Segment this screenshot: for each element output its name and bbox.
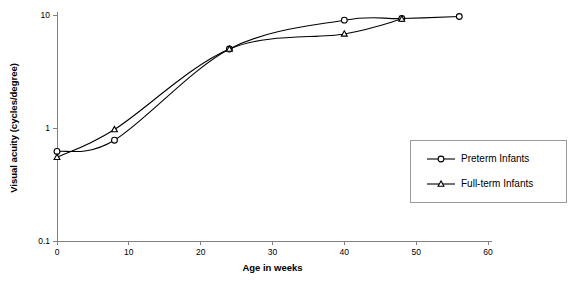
series-layer bbox=[54, 14, 462, 160]
legend-box bbox=[410, 140, 566, 202]
series-fullterm bbox=[54, 16, 405, 160]
data-point-marker bbox=[112, 137, 118, 143]
legend-marker-icon bbox=[438, 156, 444, 162]
x-axis: 0102030405060 bbox=[55, 241, 493, 257]
data-point-marker bbox=[54, 154, 60, 159]
x-tick-label: 40 bbox=[340, 247, 350, 257]
x-axis-title: Age in weeks bbox=[242, 262, 302, 273]
legend-item-label: Preterm Infants bbox=[461, 153, 529, 164]
data-point-marker bbox=[112, 126, 118, 131]
x-tick-label: 60 bbox=[483, 247, 493, 257]
series-preterm bbox=[54, 14, 462, 155]
x-tick-label: 50 bbox=[411, 247, 421, 257]
y-tick-label: 1 bbox=[45, 123, 50, 133]
y-tick-label: 0.1 bbox=[38, 236, 50, 246]
chart-legend: Preterm InfantsFull-term Infants bbox=[410, 140, 566, 202]
x-tick-label: 0 bbox=[55, 247, 60, 257]
x-axis-ticks: 0102030405060 bbox=[55, 241, 493, 257]
data-point-marker bbox=[456, 14, 462, 20]
data-point-marker bbox=[341, 17, 347, 23]
x-tick-label: 10 bbox=[124, 247, 134, 257]
data-point-marker bbox=[341, 31, 347, 36]
y-tick-label: 10 bbox=[41, 10, 51, 20]
x-tick-label: 20 bbox=[196, 247, 206, 257]
x-tick-label: 30 bbox=[268, 247, 278, 257]
chart-container: 0.1110 0102030405060 Age in weeks Visual… bbox=[0, 0, 574, 295]
y-axis-ticks: 0.1110 bbox=[38, 10, 57, 246]
legend-item-label: Full-term Infants bbox=[461, 178, 533, 189]
y-axis-title: Visual acuity (cycles/degree) bbox=[8, 63, 19, 193]
y-axis: 0.1110 bbox=[38, 10, 57, 246]
series-line bbox=[57, 19, 402, 157]
visual-acuity-line-chart: 0.1110 0102030405060 Age in weeks Visual… bbox=[0, 0, 574, 295]
